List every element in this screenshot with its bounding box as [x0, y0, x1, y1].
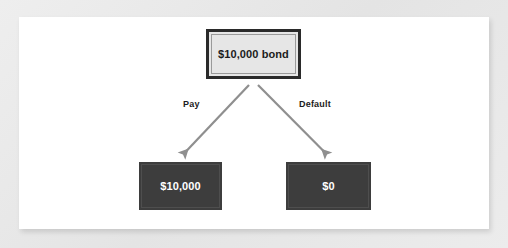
- outcome-node-default: $0: [286, 162, 371, 210]
- decision-tree-diagram: $10,000 bond Pay Default $10,000 $0: [0, 0, 508, 248]
- outcome-node-pay: $10,000: [139, 162, 222, 210]
- root-node-label: $10,000 bond: [218, 48, 289, 60]
- branch-arrow-default: [258, 85, 326, 153]
- outcome-node-default-value: $0: [322, 180, 334, 192]
- root-node-bond: $10,000 bond: [206, 29, 301, 79]
- branch-label-default: Default: [299, 99, 331, 109]
- branch-arrow-pay: [185, 85, 250, 153]
- outcome-node-pay-value: $10,000: [160, 180, 200, 192]
- branch-label-pay: Pay: [183, 99, 200, 109]
